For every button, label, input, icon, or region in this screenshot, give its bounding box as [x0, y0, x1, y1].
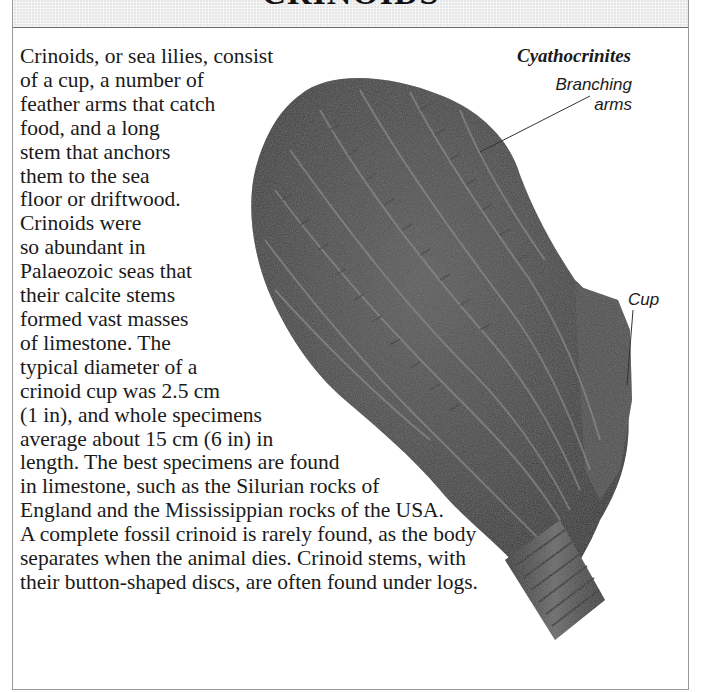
body-line: average about 15 cm (6 in) in — [20, 428, 478, 452]
body-line: formed vast masses — [20, 308, 478, 332]
cup-label: Cup — [628, 290, 659, 310]
body-line: stem that anchors — [20, 141, 478, 165]
body-line: feather arms that catch — [20, 93, 478, 117]
body-line: so abundant in — [20, 236, 478, 260]
body-line: length. The best specimens are found — [20, 451, 478, 475]
body-line: Crinoids, or sea lilies, consist — [20, 45, 478, 69]
body-line: in limestone, such as the Silurian rocks… — [20, 475, 478, 499]
body-line: their button-shaped discs, are often fou… — [20, 571, 478, 595]
branching-arms-label-line2: arms — [540, 95, 632, 115]
body-line: food, and a long — [20, 117, 478, 141]
species-name: Cyathocrinites — [517, 45, 631, 67]
body-line: separates when the animal dies. Crinoid … — [20, 547, 478, 571]
body-line: Crinoids were — [20, 212, 478, 236]
body-line: (1 in), and whole specimens — [20, 404, 478, 428]
branching-arms-label-line1: Branching — [540, 75, 632, 95]
body-line: England and the Mississippian rocks of t… — [20, 499, 478, 523]
body-line: their calcite stems — [20, 284, 478, 308]
body-line: Palaeozoic seas that — [20, 260, 478, 284]
body-line: of limestone. The — [20, 332, 478, 356]
body-line: floor or driftwood. — [20, 188, 478, 212]
body-paragraph: Crinoids, or sea lilies, consist of a cu… — [20, 45, 478, 595]
body-line: crinoid cup was 2.5 cm — [20, 380, 478, 404]
body-line: A complete fossil crinoid is rarely foun… — [20, 523, 478, 547]
body-line: typical diameter of a — [20, 356, 478, 380]
body-line: of a cup, a number of — [20, 69, 478, 93]
branching-arms-label: Branching arms — [540, 75, 632, 115]
body-line: them to the sea — [20, 165, 478, 189]
